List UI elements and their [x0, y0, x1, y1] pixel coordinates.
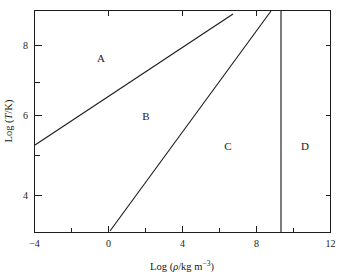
region-label-a: A [97, 52, 105, 64]
y-axis-title-suffix: /K) [3, 99, 15, 114]
x-axis-title: Log (ρ/kg m−3) [150, 259, 214, 274]
y-axis-title: Log (T/K) [3, 99, 15, 142]
x-axis-title-mid: /kg m [178, 261, 202, 272]
y-tick-labels: 4 6 8 [23, 40, 28, 201]
axis-frame [35, 11, 331, 233]
x-tick-label--4: −4 [29, 238, 40, 249]
phase-diagram-figure: −4 0 4 8 12 4 6 8 A B C D Log (ρ/kg m−3) [0, 0, 341, 276]
x-axis-title-prefix: Log ( [150, 261, 174, 273]
svg-text:Log (ρ/kg m−3): Log (ρ/kg m−3) [150, 259, 214, 274]
x-tick-labels: −4 0 4 8 12 [29, 238, 335, 249]
y-axis-ticks [35, 46, 42, 196]
x-tick-label-8: 8 [254, 238, 259, 249]
boundary-line-b-c [110, 11, 271, 231]
x-axis-title-suffix: ) [210, 261, 214, 273]
x-axis-ticks [35, 226, 331, 233]
region-label-c: C [224, 140, 231, 152]
y-tick-label-4: 4 [23, 190, 28, 201]
x-tick-label-0: 0 [106, 238, 111, 249]
y-tick-label-8: 8 [23, 40, 28, 51]
x-axis-top-ticks [109, 11, 257, 16]
x-tick-label-12: 12 [326, 238, 336, 249]
region-labels: A B C D [97, 52, 309, 152]
phase-boundaries [35, 11, 281, 232]
svg-text:Log (T/K): Log (T/K) [3, 99, 15, 142]
x-tick-label-4: 4 [180, 238, 185, 249]
plot-border [35, 11, 331, 233]
chart-canvas: −4 0 4 8 12 4 6 8 A B C D Log (ρ/kg m−3) [0, 0, 341, 276]
region-label-d: D [301, 140, 309, 152]
y-axis-title-prefix: Log ( [3, 119, 15, 143]
y-tick-label-6: 6 [23, 110, 28, 121]
region-label-b: B [142, 110, 149, 122]
boundary-line-a-b [35, 14, 233, 145]
y-axis-right-ticks [326, 46, 331, 196]
